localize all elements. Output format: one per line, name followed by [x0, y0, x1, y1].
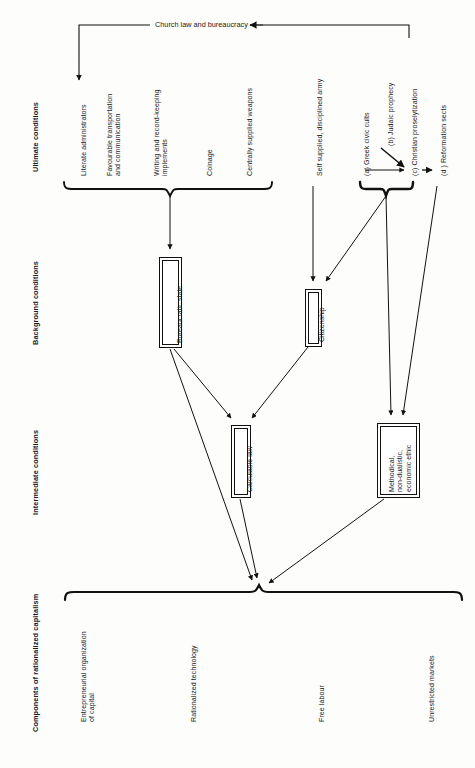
- component-item-free-labour: Free labour: [318, 685, 326, 722]
- ultimate-item-judaic-prophecy: (b) Judaic prophecy: [387, 83, 395, 146]
- connector-christian-to-church: [263, 25, 409, 38]
- connector-citizenship-to-calculable-law: [252, 347, 308, 418]
- category-label-intermediate: Intermediate conditions: [32, 430, 41, 515]
- ultimate-item-greek-civic-cults: (a) Greek civic cults: [363, 112, 371, 176]
- ultimate-item-writing-and-record-keeping: Writing and record-keeping implements: [153, 89, 170, 176]
- ultimate-item-favourable-transportation: Favourable transportation and communicat…: [106, 94, 123, 176]
- connector-judaic-to-christian: [381, 148, 404, 167]
- component-item-unrestricted-markets: Unrestricted markets: [428, 655, 436, 722]
- ultimate-item-self-supplied-army: Self supplied, disciplined army: [316, 79, 324, 176]
- box-bureaucratic-state: Bureaucratic state: [159, 257, 182, 348]
- ultimate-item-reformation-sects: (d ) Reformation sects: [440, 105, 448, 176]
- brace-ultimate-group-a: [64, 182, 272, 196]
- category-label-ultimate: Ultimate conditions: [32, 102, 41, 172]
- component-item-rationalized-technology: Rationalized technology: [190, 645, 198, 722]
- box-label-calculable-law: Calculable law: [246, 446, 254, 492]
- box-economic-ethic: Methodical, non-dualistic, economic ethi…: [377, 423, 420, 498]
- connector-reformation-to-economic-ethic: [403, 186, 437, 415]
- box-calculable-law: Calculable law: [231, 425, 251, 498]
- box-label-citizenship: Citizenship: [318, 307, 326, 342]
- category-label-background: Background conditions: [32, 261, 41, 345]
- diagram-canvas: Church law and bureaucracy Ultimate cond…: [0, 0, 475, 768]
- diagram-connectors: [0, 0, 475, 768]
- ultimate-item-literate-administrators: Literate administrators: [80, 104, 88, 176]
- component-item-entrepreneurial-organization: Entrepreneurial organization of capital: [80, 631, 97, 722]
- category-label-components: Components of rationalized capitalism: [32, 594, 41, 732]
- brace-ultimate-group-b: [360, 182, 413, 196]
- box-label-bureaucratic-state: Bureaucratic state: [176, 286, 184, 343]
- box-citizenship: Citizenship: [305, 289, 322, 347]
- ultimate-item-christian-proselytization: (c) Christian proselytization: [411, 89, 419, 176]
- box-label-economic-ethic: Methodical, non-dualistic, economic ethi…: [388, 445, 413, 492]
- connector-group-b-to-citizenship: [326, 196, 386, 281]
- ultimate-item-coinage: Coinage: [206, 149, 214, 176]
- page-title: Church law and bureaucracy: [155, 20, 248, 29]
- connector-group-b-to-economic-ethic: [386, 196, 391, 415]
- connector-church-to-literate-admin: [79, 25, 150, 62]
- ultimate-item-centrally-supplied-weapons: Centrally supplied weapons: [246, 88, 254, 176]
- brace-components-of-capitalism: [65, 585, 462, 600]
- connector-calculable-law-to-capitalism: [240, 499, 257, 578]
- connector-economic-ethic-to-capitalism: [269, 499, 384, 583]
